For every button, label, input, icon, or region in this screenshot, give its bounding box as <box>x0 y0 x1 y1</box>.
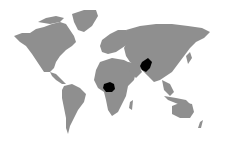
new-zealand <box>198 120 203 128</box>
greenland <box>72 10 98 32</box>
central-america <box>50 72 66 84</box>
madagascar <box>129 100 133 110</box>
japan <box>186 52 192 64</box>
world-map <box>0 0 226 151</box>
southeast-asia <box>162 80 174 96</box>
australia <box>172 102 194 118</box>
indonesia <box>164 96 190 104</box>
world-map-svg <box>0 0 226 151</box>
south-america <box>62 84 86 134</box>
north-america <box>14 22 76 72</box>
